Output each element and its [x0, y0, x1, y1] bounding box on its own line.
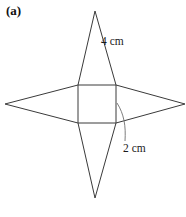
left-triangle-flap: [5, 85, 78, 123]
bottom-triangle-flap: [78, 123, 116, 198]
net-diagram: [0, 0, 186, 217]
dimension-label-square-side: 2 cm: [123, 143, 146, 155]
central-square: [78, 85, 116, 123]
figure-container: (a) 4 cm 2 cm: [0, 0, 186, 217]
top-triangle-flap: [78, 11, 116, 85]
right-triangle-flap: [116, 85, 185, 123]
dimension-label-slant-height: 4 cm: [101, 36, 124, 48]
